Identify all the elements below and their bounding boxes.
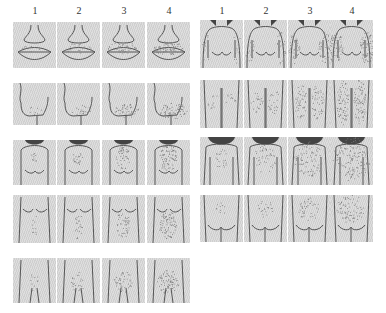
score-label-right-3: 3 bbox=[288, 5, 332, 16]
panel-lower-abdomen-score-1 bbox=[13, 258, 56, 303]
panel-thigh-score-4 bbox=[330, 80, 373, 128]
panel-upper-lip-score-3 bbox=[102, 22, 145, 68]
chin-illustration-icon bbox=[13, 83, 56, 125]
upper-abdomen-illustration-icon bbox=[13, 195, 56, 243]
panel-thigh-score-2 bbox=[244, 80, 287, 128]
upper-back-illustration-icon bbox=[288, 137, 331, 185]
upper-back-illustration-icon bbox=[330, 137, 373, 185]
lower-back-illustration-icon bbox=[288, 195, 331, 242]
panel-upper-abdomen-score-1 bbox=[13, 195, 56, 243]
panel-upper-back-score-4 bbox=[330, 137, 373, 185]
lower-abdomen-illustration-icon bbox=[13, 258, 56, 303]
panel-upper-back-score-2 bbox=[244, 137, 287, 185]
panel-chin-score-3 bbox=[102, 83, 145, 125]
upper-arm-illustration-icon bbox=[200, 20, 243, 68]
panel-upper-back-score-3 bbox=[288, 137, 331, 185]
panel-upper-arm-score-2 bbox=[244, 20, 287, 68]
panel-lower-back-score-1 bbox=[200, 195, 243, 242]
thigh-illustration-icon bbox=[200, 80, 243, 128]
panel-thigh-score-3 bbox=[288, 80, 331, 128]
panel-chin-score-4 bbox=[147, 83, 190, 125]
upper-back-illustration-icon bbox=[200, 137, 243, 185]
panel-upper-back-score-1 bbox=[200, 137, 243, 185]
panel-upper-arm-score-3 bbox=[288, 20, 331, 68]
panel-upper-arm-score-4 bbox=[330, 20, 373, 68]
upper-abdomen-illustration-icon bbox=[147, 195, 190, 243]
chest-illustration-icon bbox=[102, 140, 145, 185]
panel-upper-abdomen-score-4 bbox=[147, 195, 190, 243]
score-label-left-3: 3 bbox=[102, 5, 146, 16]
upper-abdomen-illustration-icon bbox=[102, 195, 145, 243]
upper-arm-illustration-icon bbox=[330, 20, 373, 68]
chin-illustration-icon bbox=[102, 83, 145, 125]
panel-lower-abdomen-score-4 bbox=[147, 258, 190, 303]
lower-back-illustration-icon bbox=[330, 195, 373, 242]
upper-lip-illustration-icon bbox=[147, 22, 190, 68]
lower-abdomen-illustration-icon bbox=[147, 258, 190, 303]
panel-chest-score-1 bbox=[13, 140, 56, 185]
panel-lower-back-score-4 bbox=[330, 195, 373, 242]
upper-arm-illustration-icon bbox=[288, 20, 331, 68]
panel-upper-abdomen-score-2 bbox=[57, 195, 100, 243]
panel-upper-lip-score-4 bbox=[147, 22, 190, 68]
panel-upper-lip-score-2 bbox=[57, 22, 100, 68]
chest-illustration-icon bbox=[13, 140, 56, 185]
panel-chin-score-1 bbox=[13, 83, 56, 125]
upper-arm-illustration-icon bbox=[244, 20, 287, 68]
chest-illustration-icon bbox=[147, 140, 190, 185]
panel-lower-back-score-2 bbox=[244, 195, 287, 242]
lower-back-illustration-icon bbox=[244, 195, 287, 242]
panel-chest-score-4 bbox=[147, 140, 190, 185]
lower-back-illustration-icon bbox=[200, 195, 243, 242]
score-label-right-2: 2 bbox=[244, 5, 288, 16]
score-label-right-1: 1 bbox=[200, 5, 244, 16]
panel-chest-score-2 bbox=[57, 140, 100, 185]
panel-chin-score-2 bbox=[57, 83, 100, 125]
score-label-left-2: 2 bbox=[57, 5, 101, 16]
thigh-illustration-icon bbox=[330, 80, 373, 128]
upper-back-illustration-icon bbox=[244, 137, 287, 185]
upper-lip-illustration-icon bbox=[102, 22, 145, 68]
panel-lower-back-score-3 bbox=[288, 195, 331, 242]
chin-illustration-icon bbox=[147, 83, 190, 125]
chest-illustration-icon bbox=[57, 140, 100, 185]
panel-lower-abdomen-score-2 bbox=[57, 258, 100, 303]
upper-abdomen-illustration-icon bbox=[57, 195, 100, 243]
upper-lip-illustration-icon bbox=[13, 22, 56, 68]
panel-upper-arm-score-1 bbox=[200, 20, 243, 68]
panel-lower-abdomen-score-3 bbox=[102, 258, 145, 303]
score-label-left-1: 1 bbox=[13, 5, 57, 16]
chin-illustration-icon bbox=[57, 83, 100, 125]
panel-chest-score-3 bbox=[102, 140, 145, 185]
lower-abdomen-illustration-icon bbox=[57, 258, 100, 303]
panel-upper-lip-score-1 bbox=[13, 22, 56, 68]
lower-abdomen-illustration-icon bbox=[102, 258, 145, 303]
upper-lip-illustration-icon bbox=[57, 22, 100, 68]
score-label-right-4: 4 bbox=[330, 5, 374, 16]
score-label-left-4: 4 bbox=[147, 5, 191, 16]
thigh-illustration-icon bbox=[288, 80, 331, 128]
thigh-illustration-icon bbox=[244, 80, 287, 128]
panel-upper-abdomen-score-3 bbox=[102, 195, 145, 243]
panel-thigh-score-1 bbox=[200, 80, 243, 128]
